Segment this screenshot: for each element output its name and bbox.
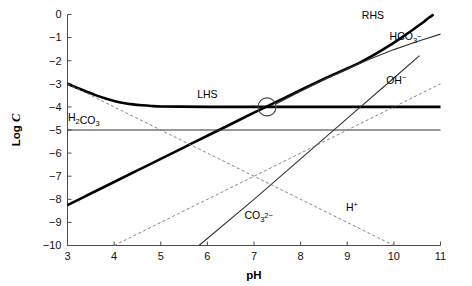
- curve-label-lhs: LHS: [197, 88, 217, 100]
- curve-label-rhs: RHS: [362, 9, 384, 21]
- x-tick-label: 10: [388, 250, 400, 262]
- y-tick-label: −2: [49, 55, 62, 67]
- series-rhs: [68, 15, 434, 206]
- y-tick-label: 0: [55, 8, 61, 20]
- x-tick-label: 11: [435, 250, 446, 262]
- x-tick-label: 9: [344, 250, 350, 262]
- y-tick-label: −5: [49, 124, 62, 136]
- y-tick-label: −1: [49, 31, 62, 43]
- y-tick-label: −6: [49, 147, 62, 159]
- y-tick-label: −4: [49, 101, 62, 113]
- x-tick-label: 8: [298, 250, 304, 262]
- y-tick-label: −3: [49, 78, 62, 90]
- series-lhs: [68, 84, 441, 107]
- y-axis-title: Log C: [9, 113, 23, 146]
- x-tick-label: 6: [204, 250, 210, 262]
- curve-label-oh-: OH−: [386, 73, 407, 86]
- y-tick-label: −8: [49, 193, 62, 205]
- log-concentration-diagram: 0−1−2−3−4−5−6−7−8−9−1034567891011pHLog C…: [0, 0, 472, 286]
- curve-label-h-: H+: [346, 200, 359, 213]
- x-axis-title: pH: [246, 269, 261, 281]
- chart-svg: 0−1−2−3−4−5−6−7−8−9−1034567891011pHLog C…: [0, 0, 472, 286]
- y-tick-label: −10: [43, 239, 62, 251]
- x-tick-label: 3: [64, 250, 70, 262]
- curve-label-co3-2-: CO32−: [244, 209, 273, 224]
- x-tick-label: 5: [158, 250, 164, 262]
- series-hco3-: [275, 34, 441, 104]
- x-tick-label: 7: [251, 250, 257, 262]
- y-tick-label: −7: [49, 170, 62, 182]
- y-tick-label: −9: [49, 216, 62, 228]
- curve-label-h2co3: H2CO3: [68, 111, 100, 128]
- x-tick-label: 4: [111, 250, 117, 262]
